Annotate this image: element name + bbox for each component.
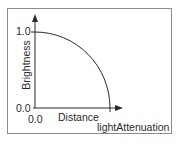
x-tick-label-end: lightAttenuation bbox=[97, 122, 169, 133]
y-axis-label: Brightness bbox=[20, 40, 32, 90]
y-tick-label-top: 1.0 bbox=[16, 26, 31, 37]
y-tick-label-bottom: 0.0 bbox=[16, 103, 31, 114]
falloff-curve bbox=[35, 32, 110, 108]
x-tick-label-start: 0.0 bbox=[28, 114, 43, 125]
x-axis-arrow-icon bbox=[115, 105, 123, 111]
x-axis-label: Distance bbox=[58, 112, 99, 123]
y-axis-arrow-icon bbox=[32, 14, 38, 22]
